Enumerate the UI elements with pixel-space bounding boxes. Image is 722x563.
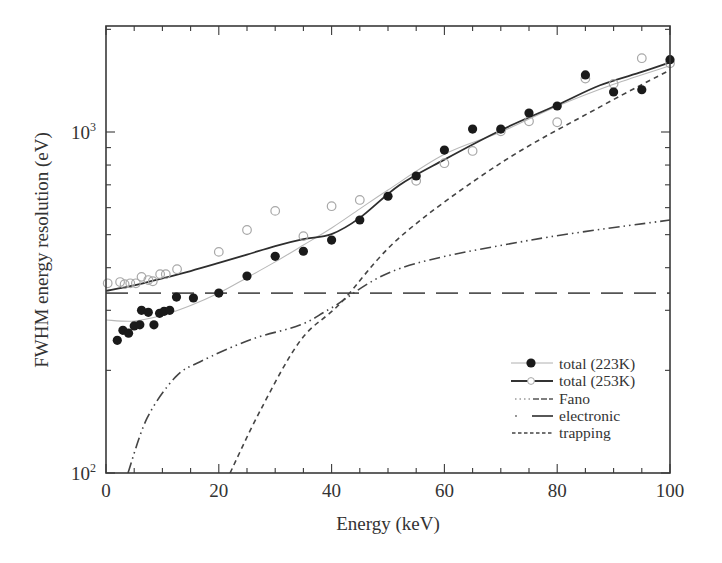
data-point [553,101,562,110]
data-point [165,306,174,315]
data-point [299,247,308,256]
legend-item-trapping: trapping [512,424,611,441]
y-axis-label: FWHM energy resolution (eV) [31,132,53,368]
data-point [524,108,533,117]
data-point [468,147,477,156]
legend: total (223K) total (253K) Fano electroni… [511,355,635,441]
x-tick-label: 80 [548,480,567,501]
y-tick-label: 103 [71,120,96,143]
data-point [638,54,647,63]
legend-item-total-223k: total (223K) [511,355,635,373]
data-point [189,293,198,302]
x-tick-label: 40 [322,480,341,501]
data-point [383,192,392,201]
legend-item-electronic: electronic [515,407,620,424]
data-point [173,265,182,274]
data-point [468,124,477,133]
data-point [609,87,618,96]
x-tick-label: 100 [656,480,685,501]
total-253k-fit-curve [106,62,670,291]
data-point [271,207,280,216]
x-tick-label: 0 [101,480,111,501]
data-point [215,248,224,257]
data-point [243,226,252,235]
data-point [355,215,364,224]
data-point [242,271,251,280]
legend-item-total-253k: total (253K) [511,372,635,390]
plot-markers [103,54,674,345]
data-point [637,85,646,94]
legend-item-fano: Fano [515,390,590,407]
data-point [103,279,112,288]
data-point [124,329,133,338]
svg-text:electronic: electronic [559,407,620,424]
data-point [156,270,165,279]
svg-text:total (253K): total (253K) [559,372,635,390]
data-point [356,196,365,205]
svg-text:total (223K): total (223K) [559,355,635,373]
data-point [113,336,122,345]
data-point [440,145,449,154]
data-point [271,252,280,261]
x-tick-label: 60 [435,480,454,501]
data-point [496,124,505,133]
x-tick-label: 20 [209,480,228,501]
chart: 020406080100102103 Energy (keV) FWHM ene… [0,0,722,563]
x-axis-label: Energy (keV) [336,513,440,535]
data-point [172,292,181,301]
data-point [144,308,153,317]
data-point [327,235,336,244]
data-point [581,70,590,79]
data-point [553,118,562,127]
data-point [135,320,144,329]
data-point [412,171,421,180]
data-point [327,202,336,211]
y-tick-label: 102 [71,461,96,484]
data-point [149,320,158,329]
svg-text:Fano: Fano [559,390,590,407]
data-point [214,288,223,297]
svg-text:trapping: trapping [559,424,611,441]
